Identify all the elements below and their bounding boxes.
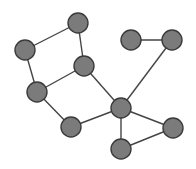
node-n3 xyxy=(74,56,94,76)
node-n8 xyxy=(162,30,182,50)
node-n7 xyxy=(121,30,141,50)
node-n6 xyxy=(111,98,131,118)
edges-layer xyxy=(25,23,173,149)
node-n4 xyxy=(27,82,47,102)
graph-diagram xyxy=(0,0,196,169)
node-n9 xyxy=(111,139,131,159)
node-n5 xyxy=(61,117,81,137)
node-n10 xyxy=(163,118,183,138)
node-n2 xyxy=(15,40,35,60)
nodes-layer xyxy=(15,13,183,159)
node-n1 xyxy=(68,13,88,33)
